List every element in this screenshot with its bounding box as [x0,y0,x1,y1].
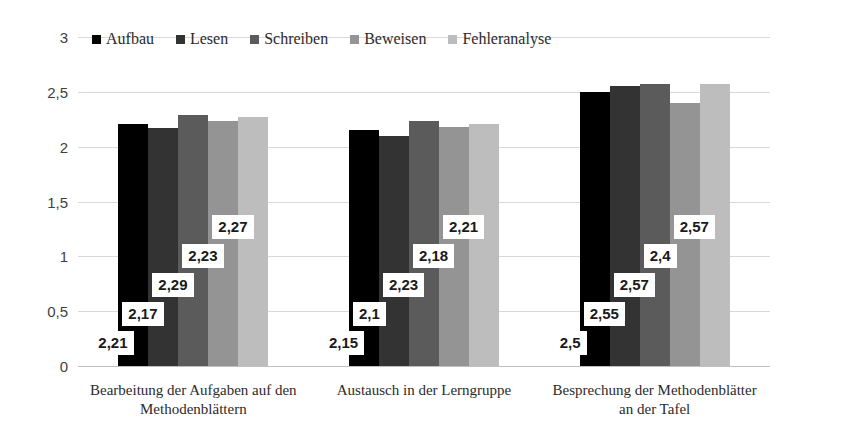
legend-swatch-icon [448,35,457,44]
grouped-bar-chart: 32,521,510,50 2,212,172,292,232,272,152,… [0,0,841,439]
bar [469,124,499,366]
y-axis-tick-label: 2,5 [16,83,68,100]
legend-swatch-icon [350,35,359,44]
legend-swatch-icon [250,35,259,44]
bar-value-label: 2,15 [323,331,364,355]
legend-item-label: Beweisen [364,31,426,47]
legend: AufbauLesenSchreibenBeweisenFehleranalys… [92,28,551,50]
bar-value-label: 2,29 [152,273,193,297]
x-axis-category-label: Bearbeitung der Aufgaben auf denMethoden… [64,381,323,419]
bar [640,84,670,366]
bar-value-label: 2,4 [644,244,677,268]
category-label-line: Austausch in der Lerngruppe [295,381,554,400]
bar-value-label: 2,57 [674,215,715,239]
bar-value-label: 2,21 [92,331,133,355]
legend-item[interactable]: Schreiben [250,31,328,47]
bar-value-label: 2,55 [584,302,625,326]
bar-value-label: 2,1 [353,302,386,326]
legend-item[interactable]: Beweisen [350,31,426,47]
bar-value-label: 2,27 [212,215,253,239]
y-axis-tick-label: 1 [16,248,68,265]
legend-swatch-icon [92,35,101,44]
bar [118,124,148,366]
x-axis-category-label: Besprechung der Methodenblätteran der Ta… [525,381,784,419]
bar-value-label: 2,17 [122,302,163,326]
bar [238,117,268,366]
legend-item[interactable]: Aufbau [92,31,154,47]
y-axis-tick-label: 0 [16,358,68,375]
category-label-line: Methodenblättern [64,400,323,419]
bar-value-label: 2,21 [443,215,484,239]
bar-value-label: 2,5 [554,331,587,355]
legend-swatch-icon [176,35,185,44]
bar [379,136,409,366]
bar [178,115,208,366]
legend-item[interactable]: Lesen [176,31,228,47]
legend-item[interactable]: Fehleranalyse [448,31,551,47]
y-axis-tick-label: 0,5 [16,303,68,320]
bar [148,128,178,366]
bar-value-label: 2,18 [413,244,454,268]
y-axis-tick-label: 3 [16,29,68,46]
legend-item-label: Aufbau [106,31,154,47]
legend-item-label: Lesen [190,31,228,47]
x-axis-category-label: Austausch in der Lerngruppe [295,381,554,400]
category-label-line: an der Tafel [525,400,784,419]
y-axis: 32,521,510,50 [16,0,68,439]
bar-value-label: 2,23 [383,273,424,297]
category-label-line: Besprechung der Methodenblätter [525,381,784,400]
bar-value-label: 2,57 [614,273,655,297]
y-axis-tick-label: 1,5 [16,193,68,210]
legend-item-label: Schreiben [264,31,328,47]
category-label-line: Bearbeitung der Aufgaben auf den [64,381,323,400]
legend-item-label: Fehleranalyse [462,31,551,47]
y-axis-tick-label: 2 [16,138,68,155]
bar-value-label: 2,23 [182,244,223,268]
